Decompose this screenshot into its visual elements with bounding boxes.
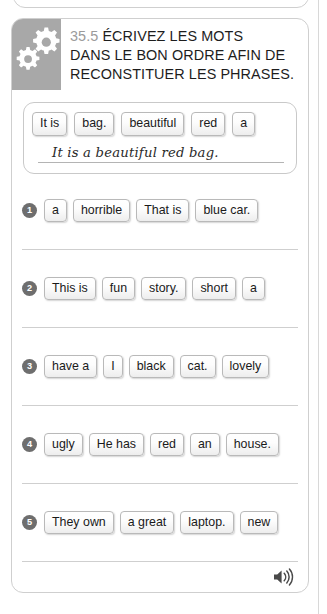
- exercise-header: 35.5ÉCRIVEZ LES MOTS DANS LE BON ORDRE A…: [12, 19, 308, 90]
- previous-card-edge: [13, 0, 309, 8]
- example-answer: It is a beautiful red bag.: [38, 145, 284, 163]
- spacer: [12, 328, 308, 345]
- word-chip[interactable]: bag.: [74, 112, 114, 135]
- word-chip[interactable]: He has: [89, 433, 144, 456]
- question-row-1: 1 a horrible That is blue car.: [12, 189, 308, 232]
- instruction-line-1: ÉCRIVEZ LES MOTS: [102, 28, 243, 44]
- example-chip-row: It is bag. beautiful red a: [32, 112, 288, 135]
- word-chip[interactable]: house.: [226, 433, 279, 456]
- question-number-badge: 3: [22, 359, 37, 374]
- word-chip[interactable]: fun: [102, 277, 135, 300]
- question-number-badge: 2: [22, 281, 37, 296]
- spacer: [12, 310, 308, 327]
- chip-row: have a I black cat. lovely: [44, 355, 298, 378]
- chip-row: This is fun story. short a: [44, 277, 298, 300]
- word-chip[interactable]: blue car.: [195, 199, 258, 222]
- word-chip[interactable]: lovely: [222, 355, 270, 378]
- word-chip[interactable]: ugly: [44, 433, 83, 456]
- word-chip[interactable]: They own: [44, 511, 114, 534]
- example-box: It is bag. beautiful red a It is a beaut…: [23, 102, 297, 173]
- word-chip[interactable]: black: [129, 355, 174, 378]
- word-chip[interactable]: have a: [44, 355, 97, 378]
- word-chip[interactable]: That is: [136, 199, 189, 222]
- instruction-line-3: RECONSTITUER LES PHRASES.: [70, 66, 294, 82]
- word-chip[interactable]: I: [103, 355, 122, 378]
- word-chip[interactable]: a: [242, 277, 265, 300]
- chip-row: They own a great laptop. new: [44, 511, 298, 534]
- spacer: [12, 544, 308, 561]
- word-chip[interactable]: short: [192, 277, 236, 300]
- question-row-4: 4 ugly He has red an house.: [12, 423, 308, 466]
- gears-icon: [12, 19, 61, 90]
- word-chip[interactable]: a: [44, 199, 67, 222]
- word-chip[interactable]: an: [190, 433, 220, 456]
- spacer: [12, 484, 308, 501]
- question-row-3: 3 have a I black cat. lovely: [12, 345, 308, 388]
- word-chip[interactable]: story.: [141, 277, 186, 300]
- exercise-instruction: 35.5ÉCRIVEZ LES MOTS DANS LE BON ORDRE A…: [61, 19, 304, 90]
- word-chip[interactable]: horrible: [73, 199, 130, 222]
- spacer: [12, 250, 308, 267]
- chip-row: ugly He has red an house.: [44, 433, 298, 456]
- exercise-number: 35.5: [70, 28, 98, 44]
- question-row-5: 5 They own a great laptop. new: [12, 501, 308, 544]
- word-chip[interactable]: new: [240, 511, 279, 534]
- word-chip[interactable]: It is: [32, 112, 67, 135]
- spacer: [12, 466, 308, 483]
- word-chip[interactable]: red: [150, 433, 184, 456]
- word-chip[interactable]: a: [232, 112, 255, 135]
- word-chip[interactable]: cat.: [180, 355, 216, 378]
- question-number-badge: 5: [22, 515, 37, 530]
- word-chip[interactable]: red: [191, 112, 225, 135]
- word-chip[interactable]: beautiful: [121, 112, 184, 135]
- spacer: [12, 406, 308, 423]
- speaker-icon[interactable]: [272, 568, 294, 586]
- word-chip[interactable]: a great: [120, 511, 175, 534]
- spacer: [12, 388, 308, 405]
- spacer: [12, 176, 308, 189]
- question-list: 1 a horrible That is blue car. 2 This is…: [12, 176, 308, 562]
- instruction-line-2: DANS LE BON ORDRE AFIN DE: [70, 47, 285, 63]
- exercise-card: 35.5ÉCRIVEZ LES MOTS DANS LE BON ORDRE A…: [11, 18, 309, 593]
- question-number-badge: 1: [22, 203, 37, 218]
- word-chip[interactable]: laptop.: [180, 511, 233, 534]
- spacer: [12, 232, 308, 249]
- chip-row: a horrible That is blue car.: [44, 199, 298, 222]
- word-chip[interactable]: This is: [44, 277, 96, 300]
- card-footer: [12, 562, 308, 593]
- question-number-badge: 4: [22, 437, 37, 452]
- question-row-2: 2 This is fun story. short a: [12, 267, 308, 310]
- page-right-edge: [318, 0, 319, 614]
